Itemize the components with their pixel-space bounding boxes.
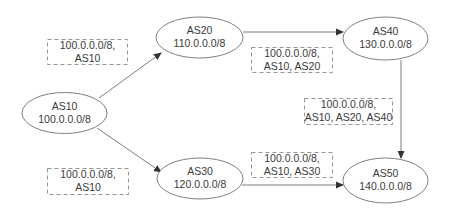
node-label-as10: AS10 100.0.0.0/8	[22, 100, 107, 126]
route-as-path: AS10, AS30	[251, 165, 333, 178]
node-prefix: 130.0.0.0/8	[343, 38, 428, 51]
node-prefix: 120.0.0.0/8	[157, 178, 243, 191]
route-as-path: AS10, AS20, AS40	[304, 111, 393, 124]
node-name: AS20	[156, 24, 243, 37]
edge-as10-as30	[97, 128, 161, 172]
route-label-as10-as30: 100.0.0.0/8, AS10	[47, 168, 129, 194]
node-label-as20: AS20 110.0.0.0/8	[156, 24, 243, 50]
route-label-as40-as50: 100.0.0.0/8, AS10, AS20, AS40	[304, 98, 393, 124]
node-label-as30: AS30 120.0.0.0/8	[157, 165, 243, 191]
node-prefix: 140.0.0.0/8	[343, 180, 428, 193]
route-as-path: AS10	[47, 181, 129, 194]
node-name: AS30	[157, 165, 243, 178]
node-label-as50: AS50 140.0.0.0/8	[343, 167, 428, 193]
node-prefix: 100.0.0.0/8	[22, 113, 107, 126]
node-label-as40: AS40 130.0.0.0/8	[343, 25, 428, 51]
route-label-as10-as20: 100.0.0.0/8, AS10	[47, 39, 128, 65]
route-label-as30-as50: 100.0.0.0/8, AS10, AS30	[251, 152, 333, 178]
node-prefix: 110.0.0.0/8	[156, 37, 243, 50]
route-as-path: AS10	[47, 52, 128, 65]
node-name: AS40	[343, 25, 428, 38]
route-prefix: 100.0.0.0/8,	[251, 152, 333, 165]
route-prefix: 100.0.0.0/8,	[251, 47, 333, 60]
route-prefix: 100.0.0.0/8,	[47, 39, 128, 52]
node-name: AS50	[343, 167, 428, 180]
route-as-path: AS10, AS20	[251, 60, 333, 73]
route-prefix: 100.0.0.0/8,	[304, 98, 393, 111]
node-name: AS10	[22, 100, 107, 113]
route-label-as20-as40: 100.0.0.0/8, AS10, AS20	[251, 47, 333, 73]
route-prefix: 100.0.0.0/8,	[47, 168, 129, 181]
